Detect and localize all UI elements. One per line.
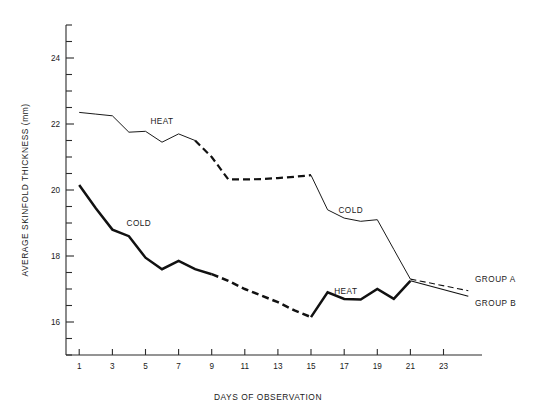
x-tick-label: 15 [306,362,316,371]
annotation-group-b: GROUP B [475,299,516,308]
y-tick-label: 22 [51,120,61,129]
x-tick-label: 5 [143,362,148,371]
x-tick-label: 23 [439,362,449,371]
x-tick-label: 3 [110,362,115,371]
x-axis-title: DAYS OF OBSERVATION [214,392,322,402]
x-tick-label: 7 [176,362,181,371]
x-tick-label: 17 [340,362,350,371]
annotation-group-a: GROUP A [475,275,516,284]
annotation-cold: COLD [338,206,363,215]
y-tick-label: 20 [51,186,61,195]
y-tick-label: 24 [51,54,61,63]
chart-background [0,0,541,420]
x-tick-label: 13 [273,362,283,371]
x-tick-label: 21 [406,362,416,371]
y-axis-title: AVERAGE SKINFOLD THICKNESS (mm) [20,103,30,276]
y-tick-label: 18 [51,252,61,261]
annotation-heat: HEAT [334,287,357,296]
skinfold-thickness-line-chart: 1618202224 1357911131517192123 HEATCOLDC… [0,0,541,420]
annotation-cold: COLD [127,219,152,228]
chart-container: 1618202224 1357911131517192123 HEATCOLDC… [0,0,541,420]
x-tick-label: 9 [209,362,214,371]
y-tick-label: 16 [51,318,61,327]
annotation-heat: HEAT [150,117,173,126]
x-tick-label: 19 [373,362,383,371]
x-tick-label: 1 [77,362,82,371]
x-tick-label: 11 [241,362,250,371]
